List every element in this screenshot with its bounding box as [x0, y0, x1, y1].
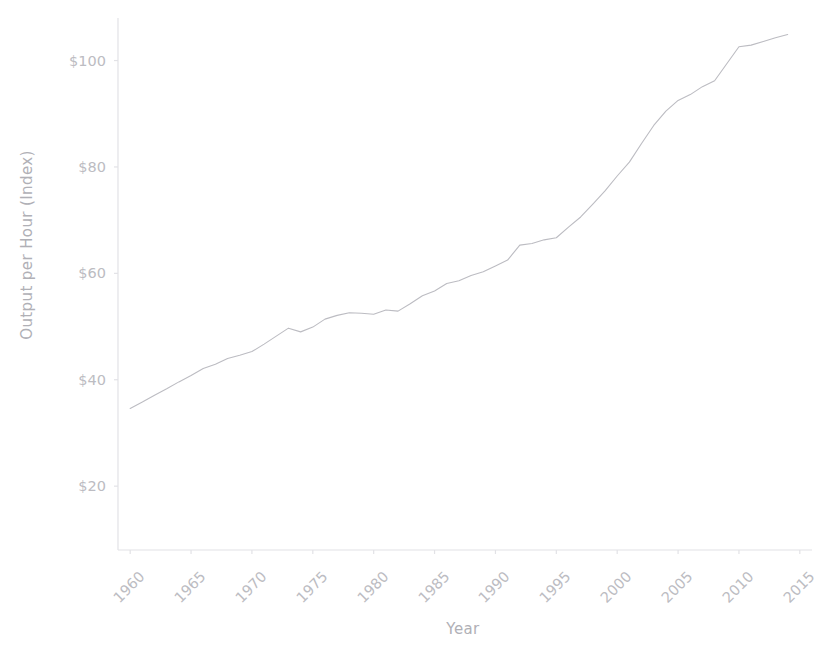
data-line-output-per-hour	[130, 34, 787, 408]
y-tick-label: $20	[40, 478, 106, 494]
plot-area	[0, 0, 825, 649]
y-tick-label: $100	[40, 53, 106, 69]
axis-spines	[118, 18, 812, 550]
y-tick-label: $80	[40, 159, 106, 175]
y-tick-label: $40	[40, 372, 106, 388]
y-tick-label: $60	[40, 265, 106, 281]
chart-figure: Output per Hour (Index) Year $20$40$60$8…	[0, 0, 825, 649]
x-axis-title: Year	[118, 620, 808, 638]
y-axis-title: Output per Hour (Index)	[14, 10, 40, 480]
